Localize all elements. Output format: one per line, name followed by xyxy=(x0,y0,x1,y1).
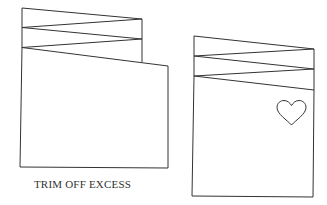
diagram-canvas xyxy=(0,0,327,205)
pleat-fold-3 xyxy=(194,69,314,76)
front-panel xyxy=(192,76,314,197)
heart-icon xyxy=(277,101,306,126)
pleat-fold-2 xyxy=(22,28,142,40)
front-panel xyxy=(20,48,168,169)
pleat-fold-1 xyxy=(194,49,314,56)
pleat-fold-1 xyxy=(22,19,142,28)
folded-card-untrimmed xyxy=(20,8,168,168)
folded-card-trimmed xyxy=(192,36,314,197)
pleat-fold-2 xyxy=(194,56,314,69)
pleat-outline xyxy=(22,8,142,62)
pleat-fold-3 xyxy=(22,39,142,48)
caption-trim-off-excess: TRIM OFF EXCESS xyxy=(0,178,165,190)
